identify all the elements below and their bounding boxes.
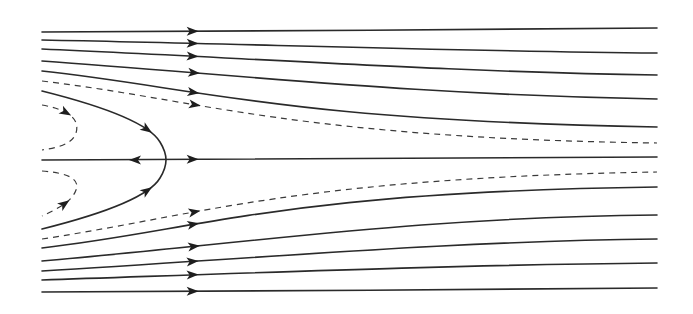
streamline-s8: [42, 215, 657, 261]
streamline-s11: [42, 288, 657, 292]
streamline-d2: [42, 172, 657, 239]
streamline-s4: [42, 61, 657, 99]
streamline-s3: [42, 49, 657, 75]
loop-top: [42, 105, 77, 150]
streamline-diagram: [0, 0, 693, 314]
arrow-icon: [59, 106, 74, 120]
streamline-s5: [42, 71, 657, 127]
arrow-right-icon: [188, 206, 201, 217]
arrow-right-icon: [188, 99, 201, 110]
streamline-s2: [42, 40, 657, 53]
streamline-s9: [42, 239, 657, 271]
loop-bottom: [42, 171, 77, 216]
streamline-s1: [42, 28, 657, 32]
